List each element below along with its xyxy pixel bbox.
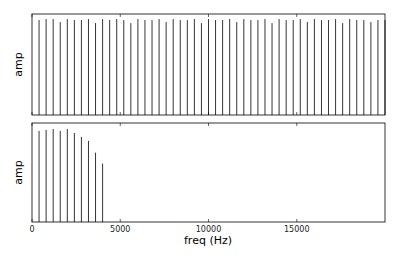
- bottom-axes-frame: [32, 123, 385, 222]
- top-axes: amp: [12, 14, 385, 115]
- top-ylabel: amp: [12, 52, 25, 76]
- xlabel: freq (Hz): [184, 234, 232, 247]
- bottom-axes: amp 0 5000 10000 15000 freq (Hz): [12, 123, 385, 247]
- xtick-label-0: 0: [29, 225, 34, 234]
- figure: amp amp 0 5000 10000 15000 freq (Hz): [0, 0, 401, 256]
- xtick-label-10000: 10000: [196, 225, 221, 234]
- bottom-ylabel: amp: [12, 160, 25, 184]
- xtick-label-5000: 5000: [110, 225, 130, 234]
- xtick-label-15000: 15000: [284, 225, 309, 234]
